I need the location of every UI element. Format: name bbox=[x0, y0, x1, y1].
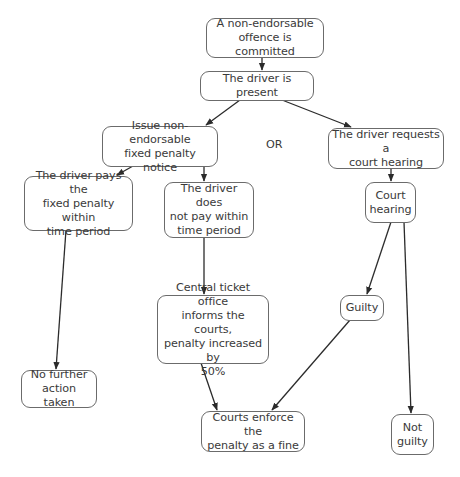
node-no-further-action-label: No further action taken bbox=[25, 368, 93, 410]
node-driver-pays: The driver pays the fixed penalty within… bbox=[24, 176, 133, 231]
node-issue-notice: Issue non-endorsable fixed penalty notic… bbox=[102, 126, 218, 167]
node-court-hearing: Court hearing bbox=[365, 182, 416, 223]
node-courts-enforce: Courts enforce the penalty as a fine bbox=[201, 411, 305, 452]
node-guilty: Guilty bbox=[340, 295, 384, 321]
node-offence-committed-label: A non-endorsable offence is committed bbox=[210, 17, 320, 59]
node-central-office: Central ticket office informs the courts… bbox=[157, 295, 269, 364]
node-not-guilty-label: Not guilty bbox=[397, 421, 428, 449]
node-courts-enforce-label: Courts enforce the penalty as a fine bbox=[205, 411, 301, 453]
node-no-further-action: No further action taken bbox=[21, 370, 97, 408]
edge-court-notguilty bbox=[404, 222, 411, 413]
node-driver-not-pay: The driver does not pay within time peri… bbox=[164, 182, 254, 238]
node-driver-present-label: The driver is present bbox=[204, 72, 310, 100]
node-driver-pays-label: The driver pays the fixed penalty within… bbox=[28, 169, 129, 239]
node-driver-not-pay-label: The driver does not pay within time peri… bbox=[168, 182, 250, 238]
node-request-hearing: The driver requests a court hearing bbox=[328, 128, 444, 169]
node-offence-committed: A non-endorsable offence is committed bbox=[206, 18, 324, 58]
edge-pays-nofurther bbox=[56, 230, 66, 369]
edge-present-request bbox=[282, 100, 351, 127]
node-guilty-label: Guilty bbox=[346, 301, 378, 315]
node-central-office-label: Central ticket office informs the courts… bbox=[161, 281, 265, 379]
flowchart: A non-endorsable offence is committed Th… bbox=[0, 0, 460, 477]
node-not-guilty: Not guilty bbox=[391, 414, 434, 455]
or-label: OR bbox=[266, 138, 283, 151]
node-request-hearing-label: The driver requests a court hearing bbox=[332, 128, 440, 170]
edge-guilty-enforce bbox=[272, 320, 350, 410]
node-driver-present: The driver is present bbox=[200, 71, 314, 101]
node-issue-notice-label: Issue non-endorsable fixed penalty notic… bbox=[106, 119, 214, 175]
edge-court-guilty bbox=[367, 222, 391, 294]
node-court-hearing-label: Court hearing bbox=[369, 189, 411, 217]
